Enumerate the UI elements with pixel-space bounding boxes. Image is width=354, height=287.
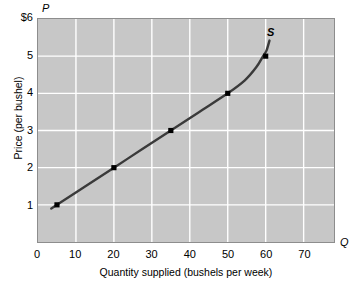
- x-axis-tick-label: 30: [145, 249, 157, 260]
- data-point-marker: [168, 128, 173, 133]
- x-axis-tick-label: 50: [222, 249, 234, 260]
- data-point-marker: [263, 54, 268, 59]
- x-axis-symbol: Q: [340, 236, 349, 248]
- x-axis-tick-label: 60: [260, 249, 272, 260]
- y-axis-tick-label: 1: [27, 200, 33, 211]
- y-axis-tick-label: $6: [21, 12, 33, 23]
- x-axis-tick-label: 70: [298, 249, 310, 260]
- y-axis-tick-label: 5: [27, 50, 33, 61]
- y-axis-tick-label: 2: [27, 162, 33, 173]
- y-axis-title: Price (per bushel): [12, 48, 24, 188]
- data-point-marker: [54, 202, 59, 207]
- data-point-marker: [225, 91, 230, 96]
- x-axis-tick-label: 20: [107, 249, 119, 260]
- x-axis-tick-label: 10: [69, 249, 81, 260]
- data-point-marker: [111, 165, 116, 170]
- supply-curve-label: S: [267, 26, 274, 38]
- supply-curve-figure: 12345$6 010203040506070 Price (per bushe…: [0, 0, 354, 287]
- plot-area: [37, 18, 335, 243]
- x-axis-title: Quantity supplied (bushels per week): [37, 266, 335, 278]
- x-axis-tick-label: 0: [34, 249, 40, 260]
- y-axis-tick-label: 4: [27, 87, 33, 98]
- y-axis-symbol: P: [42, 2, 49, 14]
- x-axis-tick-labels: 010203040506070: [0, 249, 354, 265]
- supply-curve-layer: [38, 19, 334, 242]
- y-axis-tick-label: 3: [27, 125, 33, 136]
- x-axis-tick-label: 40: [184, 249, 196, 260]
- supply-curve-line: [51, 41, 269, 209]
